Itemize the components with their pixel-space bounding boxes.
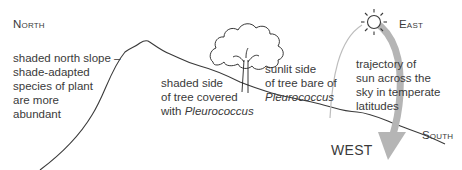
- north-slope-line: species of plant: [13, 79, 120, 93]
- north-slope-label: shaded north slope – shade-adapted speci…: [13, 51, 120, 121]
- trajectory-line: trajectory of: [356, 57, 440, 71]
- shaded-side-line: with Pleurococcus: [161, 104, 254, 118]
- north-label: North: [13, 17, 45, 31]
- trajectory-line: latitudes: [356, 99, 440, 113]
- west-label: WEST: [331, 143, 373, 157]
- sunlit-side-label: sunlit side of tree bare of Pleurococcus: [265, 62, 337, 104]
- trajectory-label: trajectory of sun across the sky in temp…: [356, 57, 440, 113]
- trajectory-line: sky in temperate: [356, 85, 440, 99]
- shaded-side-label: shaded side of tree covered with Pleuroc…: [161, 76, 254, 118]
- trajectory-line: sun across the: [356, 71, 440, 85]
- shaded-side-line: of tree covered: [161, 90, 254, 104]
- north-slope-line: are more: [13, 93, 120, 107]
- north-slope-line: shaded north slope –: [13, 51, 120, 65]
- north-slope-line: abundant: [13, 107, 120, 121]
- sunlit-side-line: of tree bare of: [265, 76, 337, 90]
- sunlit-side-line: sunlit side: [265, 62, 337, 76]
- north-slope-line: shade-adapted: [13, 65, 120, 79]
- pleurococcus-term: Pleurococcus: [265, 90, 337, 104]
- shaded-side-prefix: with: [161, 105, 185, 117]
- south-label: South: [422, 128, 453, 142]
- shaded-side-line: shaded side: [161, 76, 254, 90]
- pleurococcus-term: Pleurococcus: [185, 105, 254, 117]
- east-label: East: [399, 17, 423, 31]
